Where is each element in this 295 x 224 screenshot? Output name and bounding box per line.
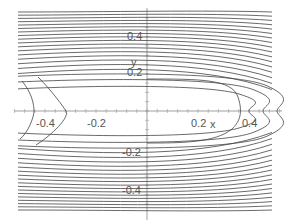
y-tick-label--0.2: -0.2 bbox=[122, 147, 141, 158]
x-axis-label: x bbox=[210, 119, 216, 130]
y-tick-label--0.4: -0.4 bbox=[122, 185, 141, 196]
y-tick-label-0.2: 0.2 bbox=[127, 67, 142, 78]
contour-plot bbox=[0, 0, 295, 224]
x-tick-label-0.2: 0.2 bbox=[191, 118, 206, 129]
x-tick-label-0.4: 0.4 bbox=[242, 118, 257, 129]
y-tick-label-0.4: 0.4 bbox=[127, 31, 142, 42]
x-tick-label--0.2: -0.2 bbox=[87, 118, 106, 129]
x-tick-label--0.4: -0.4 bbox=[36, 118, 55, 129]
